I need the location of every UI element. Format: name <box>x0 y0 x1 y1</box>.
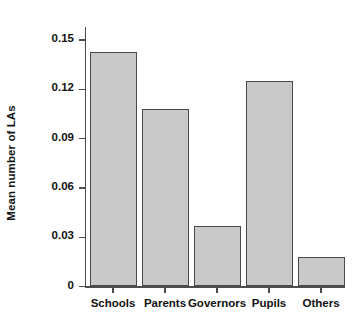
x-axis-tick-mark <box>320 287 321 293</box>
x-axis-tick-mark <box>112 287 113 293</box>
bar-chart-figure: Mean number of LAs 00.030.060.090.120.15… <box>0 0 361 325</box>
x-axis-tick-label-parents: Parents <box>144 297 186 309</box>
y-axis-title-text: Mean number of LAs <box>5 105 17 221</box>
plot-area: 00.030.060.090.120.15 SchoolsParentsGove… <box>85 20 345 287</box>
x-axis-tick-mark <box>216 287 217 293</box>
y-axis-tick-mark <box>79 39 85 40</box>
y-axis-tick-mark <box>79 89 85 90</box>
bar-schools <box>90 52 137 287</box>
x-axis-tick-mark <box>268 287 269 293</box>
bar-others <box>298 257 345 287</box>
y-axis-spine <box>85 27 86 287</box>
bar-governors <box>194 226 241 287</box>
y-axis-tick-label: 0 <box>68 279 74 291</box>
x-axis-tick-mark <box>164 287 165 293</box>
y-axis-tick-mark <box>79 286 85 287</box>
y-axis-tick-label: 0.15 <box>52 32 74 44</box>
x-axis-tick-label-others: Others <box>302 297 339 309</box>
bar-pupils <box>246 81 293 286</box>
x-axis-tick-label-schools: Schools <box>91 297 136 309</box>
x-axis-tick-label-governors: Governors <box>188 297 246 309</box>
y-axis-tick-label: 0.12 <box>52 81 74 93</box>
y-axis-title: Mean number of LAs <box>0 0 22 325</box>
y-axis-tick-label: 0.09 <box>52 131 74 143</box>
x-axis-tick-label-pupils: Pupils <box>252 297 287 309</box>
y-axis-tick-mark <box>79 237 85 238</box>
y-axis-tick-mark <box>79 138 85 139</box>
y-axis-tick-mark <box>79 187 85 188</box>
x-axis-spine <box>85 286 345 287</box>
bar-parents <box>142 109 189 286</box>
y-axis-tick-label: 0.03 <box>52 229 74 241</box>
y-axis-tick-label: 0.06 <box>52 180 74 192</box>
